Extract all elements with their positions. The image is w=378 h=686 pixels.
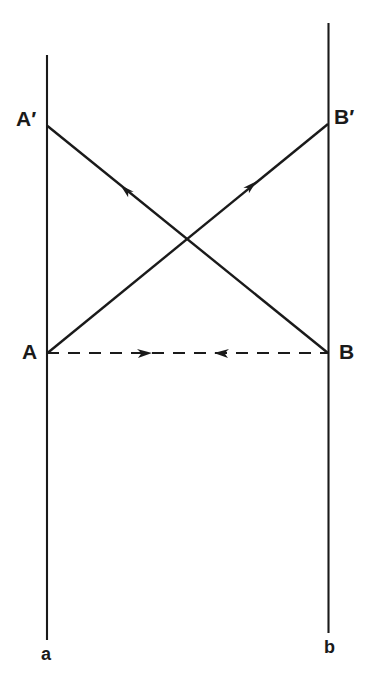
label-a-point: A [22, 341, 37, 362]
label-b-prime: B′ [334, 106, 354, 127]
label-b-point: B [339, 341, 354, 362]
label-line-b: b [324, 638, 335, 656]
label-line-a: a [41, 645, 51, 663]
diagram-svg [0, 0, 378, 686]
label-a-prime: A′ [16, 108, 36, 129]
figure-canvas: A′ B′ A B a b [0, 0, 378, 686]
